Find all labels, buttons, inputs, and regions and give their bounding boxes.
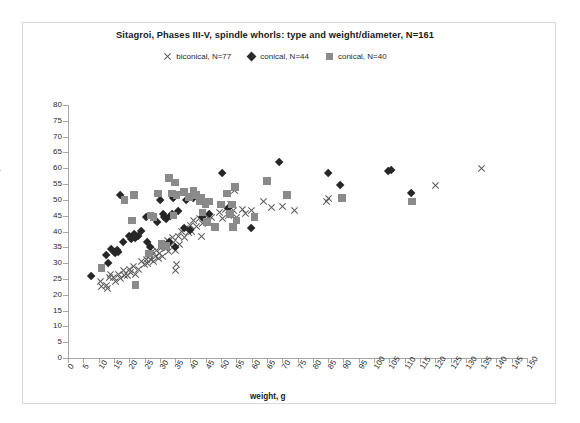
data-point <box>164 248 173 257</box>
legend-label-conical-square: conical, N=40 <box>338 52 387 61</box>
data-point <box>247 224 256 233</box>
y-axis-tick-label: 0 <box>30 353 62 362</box>
data-point <box>431 181 440 190</box>
data-point <box>128 217 136 225</box>
data-point <box>126 235 135 244</box>
data-point <box>275 157 284 166</box>
legend-item-conical-diamond[interactable]: conical, N=44 <box>247 52 309 61</box>
data-point <box>165 174 173 182</box>
data-point <box>233 217 241 225</box>
data-point <box>103 284 112 293</box>
data-point <box>121 196 129 204</box>
data-point <box>131 270 140 279</box>
data-point <box>109 248 118 257</box>
data-point <box>226 200 235 209</box>
data-point <box>238 205 247 214</box>
y-axis-tick-label: 50 <box>30 195 62 204</box>
data-point <box>158 252 167 261</box>
data-point <box>229 206 238 215</box>
data-point <box>190 187 198 195</box>
data-point <box>197 232 206 241</box>
data-point <box>161 242 169 250</box>
data-point <box>189 194 198 203</box>
data-point <box>477 164 486 173</box>
data-point <box>181 224 190 233</box>
data-point <box>221 205 230 214</box>
data-point <box>185 193 193 201</box>
y-axis-tick-label: 55 <box>30 179 62 188</box>
data-point <box>168 233 177 242</box>
data-point <box>189 216 198 225</box>
data-point <box>170 212 178 220</box>
data-point <box>215 208 224 217</box>
data-point <box>86 271 95 280</box>
data-point <box>105 273 114 282</box>
data-point <box>120 271 129 280</box>
data-point <box>231 183 239 191</box>
data-point <box>166 211 175 220</box>
data-point <box>204 218 213 227</box>
data-point <box>145 251 154 260</box>
data-point <box>175 240 184 249</box>
data-point <box>193 191 201 199</box>
data-point <box>218 168 227 177</box>
legend-item-conical-square[interactable]: conical, N=40 <box>325 52 387 61</box>
square-marker-icon <box>326 53 333 60</box>
data-point <box>149 211 158 220</box>
data-point <box>168 190 176 198</box>
data-point <box>152 217 161 226</box>
data-point <box>198 219 207 228</box>
data-point <box>180 188 188 196</box>
data-point <box>134 232 143 241</box>
y-axis-tick-label: 45 <box>30 211 62 220</box>
data-point <box>224 211 233 220</box>
data-point <box>126 268 135 277</box>
data-point <box>229 223 237 231</box>
data-point <box>160 213 169 222</box>
data-point <box>217 201 225 209</box>
data-point <box>102 251 111 260</box>
data-point <box>199 209 207 217</box>
data-point <box>168 210 177 219</box>
y-axis-tick-label: 60 <box>30 163 62 172</box>
screenshot-canvas: Sitagroi, Phases III-V, spindle whorls: … <box>0 0 580 423</box>
data-point <box>174 232 183 241</box>
data-point <box>195 214 204 223</box>
legend-item-biconical[interactable]: biconical, N=77 <box>163 52 231 61</box>
data-point <box>125 232 134 241</box>
data-point <box>180 233 189 242</box>
data-point <box>161 214 170 223</box>
data-point <box>119 238 128 247</box>
data-point <box>218 214 227 223</box>
data-point <box>130 191 138 199</box>
y-axis-tick-label: 70 <box>30 132 62 141</box>
data-point <box>158 210 167 219</box>
data-point <box>131 233 140 242</box>
data-point <box>171 243 180 252</box>
data-point <box>224 203 233 212</box>
data-point <box>196 198 204 206</box>
data-point <box>201 211 210 220</box>
data-point <box>154 254 163 263</box>
data-point <box>157 243 166 252</box>
data-point <box>278 202 287 211</box>
data-point <box>338 194 346 202</box>
y-axis-tick-labels: 05101520253035404550556065707580 <box>26 0 62 423</box>
data-point <box>96 278 105 287</box>
cross-marker-icon <box>163 52 172 61</box>
data-point <box>152 246 161 255</box>
data-point <box>161 244 170 253</box>
data-point <box>263 177 271 185</box>
data-point <box>171 267 180 276</box>
y-axis-tick-label: 5 <box>30 337 62 346</box>
data-point <box>163 236 172 245</box>
data-point <box>109 273 118 282</box>
data-point <box>198 213 207 222</box>
data-point <box>106 244 115 253</box>
data-point <box>324 168 333 177</box>
data-point <box>186 225 195 234</box>
data-point <box>125 265 134 274</box>
chart-legend: biconical, N=77 conical, N=44 conical, N… <box>40 52 510 61</box>
y-axis-tick-label: 10 <box>30 321 62 330</box>
data-point <box>247 206 256 215</box>
